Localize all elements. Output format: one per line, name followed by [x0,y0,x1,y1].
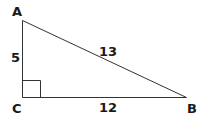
vertex-c-label: C [12,101,22,116]
right-angle-marker [23,81,41,98]
vertex-a-label: A [12,4,22,19]
triangle-diagram: A C B 5 13 12 [0,0,203,118]
vertex-b-label: B [187,101,197,116]
triangle-shape [23,21,187,98]
side-ac-label: 5 [11,50,20,65]
side-ab-label: 13 [99,44,117,59]
side-cb-label: 12 [99,100,117,115]
